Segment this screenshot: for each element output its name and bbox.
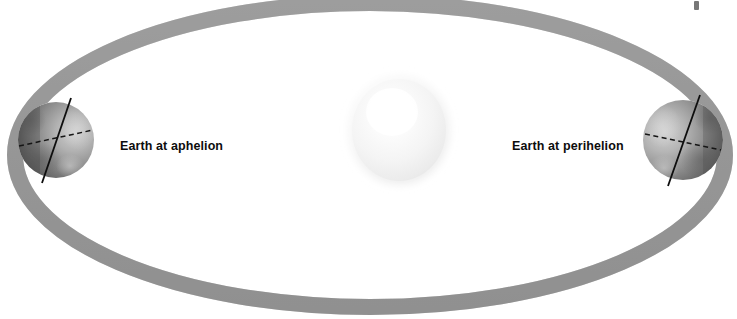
orbit-diagram-canvas [0,0,737,319]
orbit-diagram: Earth at aphelion Earth at perihelion [0,0,737,319]
sun-graphic [349,76,449,184]
earth-perihelion-landmass-a [643,104,681,148]
sun-highlight [366,88,418,136]
earth-at-perihelion-label: Earth at perihelion [512,140,624,153]
earth-at-aphelion-label: Earth at aphelion [120,140,223,153]
scan-speck-icon [694,1,699,10]
earth-aphelion-landmass-c [56,154,84,178]
